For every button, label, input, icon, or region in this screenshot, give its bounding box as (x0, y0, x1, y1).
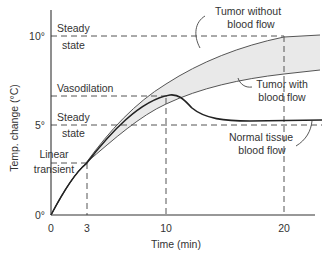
y-axis-title: Temp. change (°C) (8, 84, 20, 172)
steady-state-top-label-2: state (62, 39, 85, 51)
steady-state-mid-label-1: Steady (57, 111, 90, 123)
normal-tissue-label-2: blood flow (238, 144, 286, 156)
vasodilation-label: Vasodilation (57, 82, 114, 94)
x-tick-3: 3 (84, 222, 90, 234)
linear-transient-label-1: Linear (39, 148, 69, 160)
y-tick-0: 0° (35, 209, 45, 221)
x-tick-20: 20 (278, 222, 290, 234)
x-tick-10: 10 (160, 222, 172, 234)
tumor-without-label-2: blood flow (227, 18, 275, 30)
y-tick-5: 5° (35, 119, 45, 131)
temperature-chart: 10° 5° 0° 0 3 10 20 Time (min) Temp. cha… (0, 0, 332, 258)
linear-transient-label-2: transient (34, 163, 74, 175)
tumor-with-label-1: Tumor with (256, 78, 308, 90)
tumor-with-label-2: blood flow (258, 91, 306, 103)
x-tick-0: 0 (48, 222, 54, 234)
steady-state-mid-label-2: state (62, 127, 85, 139)
y-tick-10: 10° (29, 30, 45, 42)
steady-state-top-label-1: Steady (57, 22, 90, 34)
normal-tissue-label-1: Normal tissue (229, 131, 293, 143)
tumor-without-leader (196, 16, 205, 48)
tumor-without-label-1: Tumor without (215, 5, 281, 17)
x-axis-title: Time (min) (151, 238, 201, 250)
